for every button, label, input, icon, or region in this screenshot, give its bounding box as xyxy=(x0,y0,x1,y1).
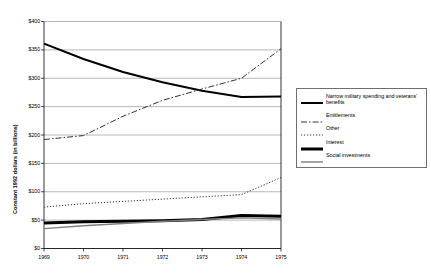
legend-swatch-icon xyxy=(301,139,323,147)
y-axis-tick-label: $250 xyxy=(14,103,40,109)
series-line xyxy=(44,178,281,208)
y-axis-tick-label: $50 xyxy=(14,217,40,223)
legend-item-label: Entitlements xyxy=(326,112,355,118)
y-axis-tick-label: $0 xyxy=(14,245,40,251)
legend-swatch-icon xyxy=(301,93,323,101)
legend-item[interactable]: Entitlements xyxy=(301,112,424,120)
chart-legend: Narrow military spending and veterans' b… xyxy=(296,88,427,168)
legend-item-label: Other xyxy=(326,125,339,131)
x-axis-tick-label: 1971 xyxy=(109,254,137,260)
legend-item[interactable]: Social investments xyxy=(301,152,424,160)
x-axis-tick-label: 1969 xyxy=(30,254,58,260)
legend-swatch-icon xyxy=(301,112,323,120)
legend-item[interactable]: Other xyxy=(301,125,424,133)
y-axis-tick-label: $300 xyxy=(14,75,40,81)
y-axis-tick-label: $100 xyxy=(14,188,40,194)
legend-item[interactable]: Narrow military spending and veterans' b… xyxy=(301,93,424,105)
y-axis-tick-label: $400 xyxy=(14,18,40,24)
x-axis-tick-label: 1970 xyxy=(70,254,98,260)
x-axis-tick-label: 1973 xyxy=(188,254,216,260)
chart-figure: Constant 1992 dollars (in billions) $0$5… xyxy=(0,0,431,279)
x-axis-tick-label: 1972 xyxy=(149,254,177,260)
y-axis-tick-label: $350 xyxy=(14,46,40,52)
y-axis-tick-label: $200 xyxy=(14,132,40,138)
y-axis-tick-label: $150 xyxy=(14,160,40,166)
legend-item-label: Social investments xyxy=(326,152,370,158)
x-axis-tick-label: 1975 xyxy=(267,254,295,260)
x-axis-tick-label: 1974 xyxy=(228,254,256,260)
legend-item-label: Interest xyxy=(326,139,344,145)
legend-swatch-icon xyxy=(301,152,323,160)
series-line xyxy=(44,49,281,140)
series-line xyxy=(44,44,281,97)
legend-swatch-icon xyxy=(301,125,323,133)
legend-item[interactable]: Interest xyxy=(301,139,424,147)
legend-item-label: Narrow military spending and veterans' b… xyxy=(326,93,424,105)
